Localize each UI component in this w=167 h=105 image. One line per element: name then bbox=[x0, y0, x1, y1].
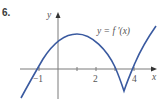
tick-label-4: 4 bbox=[132, 74, 137, 84]
derivative-curve bbox=[21, 26, 156, 98]
curve-label: y = f ′(x) bbox=[96, 26, 130, 37]
y-axis-label: y bbox=[46, 10, 52, 20]
graph: y x −1 2 4 y = f ′(x) bbox=[0, 0, 167, 105]
y-axis-arrow-icon bbox=[56, 12, 61, 18]
tick-label-neg1: −1 bbox=[33, 74, 43, 84]
x-axis-label: x bbox=[151, 72, 157, 82]
tick-label-2: 2 bbox=[93, 74, 98, 84]
x-axis-arrow-icon bbox=[151, 67, 157, 72]
